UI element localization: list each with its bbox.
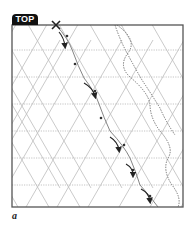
guide-curves [115,25,179,207]
curved-fold-arrow [126,164,133,175]
triangle-grid [0,0,195,227]
paper-square [12,25,183,207]
curved-fold-arrow [110,137,119,150]
crease-pattern [0,0,195,227]
figure-caption: a [12,210,17,221]
diagonal-grid-lines [0,0,195,227]
horizontal-grid-lines [12,50,183,185]
origami-diagram: TOP a [0,0,195,227]
top-label-tab: TOP [12,14,38,25]
fold-arrows [59,32,150,201]
